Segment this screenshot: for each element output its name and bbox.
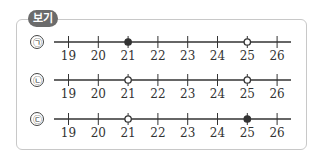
number-lines: ㉠1920212223242526㉡1920212223242526㉢19202… (0, 0, 324, 162)
open-point (125, 116, 131, 122)
tick-label: 20 (91, 126, 106, 140)
row-label: ㉡ (33, 76, 42, 86)
filled-point (125, 39, 131, 45)
tick-label: 22 (150, 87, 165, 101)
tick-label: 19 (61, 49, 76, 63)
tick-label: 19 (61, 87, 76, 101)
tick-label: 21 (120, 87, 135, 101)
open-point (244, 77, 250, 83)
tick-label: 25 (240, 87, 255, 101)
tick-label: 22 (150, 49, 165, 63)
open-point (244, 39, 250, 45)
tick-label: 26 (269, 87, 284, 101)
tick-label: 24 (210, 49, 226, 63)
tick-label: 25 (240, 126, 255, 140)
tick-label: 25 (240, 49, 255, 63)
tick-label: 23 (180, 126, 195, 140)
row-label: ㉠ (33, 38, 42, 48)
row-label: ㉢ (33, 115, 42, 125)
tick-label: 20 (91, 49, 106, 63)
tick-label: 19 (61, 126, 76, 140)
tick-label: 21 (120, 49, 135, 63)
tick-label: 23 (180, 49, 195, 63)
tick-label: 23 (180, 87, 195, 101)
tick-label: 26 (269, 126, 284, 140)
tick-label: 26 (269, 49, 284, 63)
open-point (125, 77, 131, 83)
tick-label: 24 (210, 126, 226, 140)
tick-label: 22 (150, 126, 165, 140)
tick-label: 20 (91, 87, 106, 101)
tick-label: 21 (120, 126, 135, 140)
tick-label: 24 (210, 87, 226, 101)
filled-point (244, 116, 250, 122)
